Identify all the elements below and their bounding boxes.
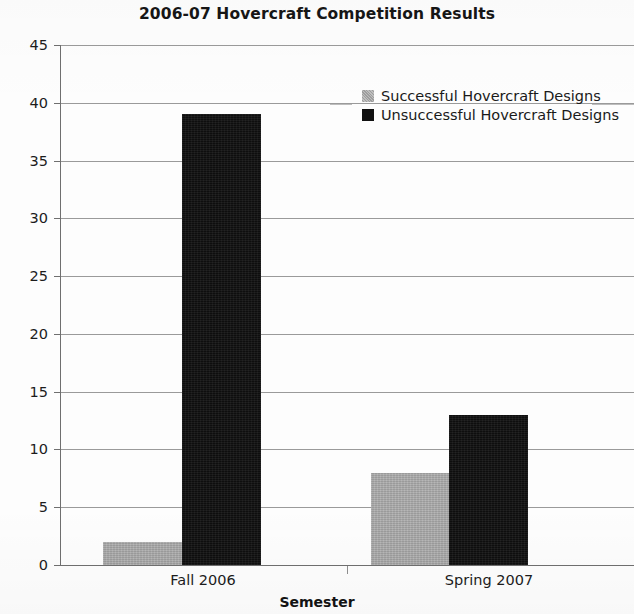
black-swatch-icon — [362, 109, 374, 121]
bar-spring-2007-unsuccessful — [449, 415, 528, 565]
chart-title: 2006-07 Hovercraft Competition Results — [0, 5, 634, 23]
bar-chart: 2006-07 Hovercraft Competition Results 4… — [0, 0, 634, 614]
chart-legend: Successful Hovercraft Designs Unsuccessf… — [362, 86, 619, 124]
y-tick-label-10: 10 — [4, 441, 48, 457]
y-tick-label-25: 25 — [4, 268, 48, 284]
gray-swatch-icon — [362, 90, 374, 102]
y-tick-label-35: 35 — [4, 153, 48, 169]
legend-label-successful: Successful Hovercraft Designs — [381, 88, 601, 104]
bar-fall-2006-unsuccessful — [182, 114, 261, 565]
bar-fall-2006-successful — [103, 542, 182, 565]
y-tick-label-5: 5 — [4, 499, 48, 515]
y-tick-label-45: 45 — [4, 37, 48, 53]
scan-artifact-line-right — [592, 104, 634, 105]
y-axis-tick-labels: 45 40 35 30 25 20 15 10 5 0 — [0, 0, 48, 614]
y-tick-label-15: 15 — [4, 384, 48, 400]
legend-item-unsuccessful: Unsuccessful Hovercraft Designs — [362, 105, 619, 124]
y-tick-label-0: 0 — [4, 557, 48, 573]
y-tick-label-40: 40 — [4, 95, 48, 111]
x-tick-label-fall-2006: Fall 2006 — [170, 572, 235, 588]
y-tick-label-20: 20 — [4, 326, 48, 342]
legend-label-unsuccessful: Unsuccessful Hovercraft Designs — [381, 107, 619, 123]
scan-artifact-line-left — [330, 104, 352, 105]
y-tick-label-30: 30 — [4, 210, 48, 226]
y-tick-mark-0 — [54, 565, 61, 566]
bar-spring-2007-successful — [371, 473, 449, 565]
legend-item-successful: Successful Hovercraft Designs — [362, 86, 619, 105]
x-axis-title: Semester — [0, 594, 634, 610]
x-axis-tick-mark — [347, 566, 348, 574]
x-tick-label-spring-2007: Spring 2007 — [445, 572, 533, 588]
